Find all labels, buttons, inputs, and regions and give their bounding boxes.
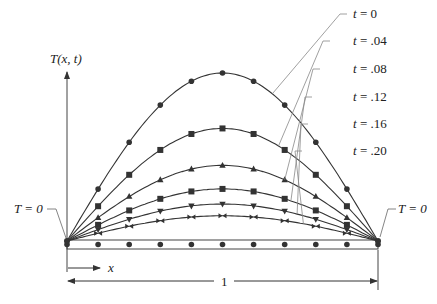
data-marker-triangle-up [219,162,225,168]
length-label: 1 [221,274,228,289]
x-label: x [107,260,114,275]
data-marker-square [282,196,288,202]
data-marker-square [344,222,350,228]
rod-node [126,242,132,248]
data-marker-square [313,172,319,178]
data-marker-circle [189,78,195,84]
rod-nodes [64,242,381,248]
data-marker-square [157,147,163,153]
data-marker-square [344,203,350,209]
rod-node [189,242,195,248]
data-marker-square [188,188,194,194]
data-marker-square [95,203,101,209]
rod-node [282,242,288,248]
data-marker-circle [95,186,101,192]
legend-label: t = .08 [353,61,387,76]
right-end-node [375,238,381,244]
legend-item [297,124,308,214]
data-marker-triangle-up [126,193,132,199]
left-boundary-label: T = 0 [14,201,43,216]
data-marker-square [126,172,132,178]
left-end-node [64,238,70,244]
rod-node [344,242,350,248]
data-marker-square [220,186,226,192]
right-boundary-label: T = 0 [398,201,427,216]
data-marker-circle [313,139,319,145]
data-marker-square [188,131,194,137]
data-marker-bowtie [219,213,227,218]
data-marker-circle [282,102,288,108]
data-marker-square [157,196,163,202]
rod-node [251,242,257,248]
data-marker-circle [344,186,350,192]
data-marker-square [251,188,257,194]
left-boundary-leader [47,209,66,238]
curve-t-12 [67,186,378,241]
data-marker-bowtie [281,218,289,223]
rod-node [95,242,101,248]
data-marker-bowtie [250,214,258,219]
curve-t-16 [67,202,378,241]
time-legend: t = 0t = .04t = .08t = .12t = .16t = .20 [272,6,387,224]
data-marker-bowtie [156,218,164,223]
data-marker-square [251,131,257,137]
rod-node [220,242,226,248]
data-marker-square [95,222,101,228]
rod-node [158,242,164,248]
legend-label: t = .20 [353,143,387,158]
data-marker-bowtie [187,214,195,219]
right-boundary-leader [380,209,396,237]
legend-label: t = .04 [353,33,387,48]
data-marker-triangle-up [344,214,350,220]
legend-label: t = 0 [353,6,377,21]
rod-node [313,242,319,248]
data-marker-square [313,207,319,213]
data-marker-square [282,147,288,153]
temperature-curves [64,70,381,244]
data-marker-circle [251,78,257,84]
legend-label: t = .12 [353,89,387,104]
data-marker-bowtie [312,224,320,229]
data-marker-circle [220,70,226,76]
heat-rod-diagram: T(x, t) x 1 T = 0 T = 0 t = 0t = .04t = … [0,0,437,304]
data-marker-triangle-down [219,202,225,208]
data-marker-square [126,207,132,213]
data-marker-bowtie [125,224,133,229]
legend-label: t = .16 [353,116,387,131]
legend-item [291,97,312,201]
axis-label-T: T(x, t) [50,51,82,66]
data-marker-square [220,125,226,131]
data-marker-circle [158,102,164,108]
data-marker-circle [126,139,132,145]
data-marker-triangle-up [95,214,101,220]
data-marker-triangle-up [313,193,319,199]
